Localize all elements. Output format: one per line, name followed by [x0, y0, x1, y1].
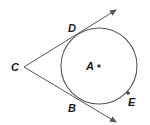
point-E-dot [126, 91, 130, 95]
label-B: B [68, 102, 76, 114]
ray-CD [24, 10, 116, 67]
label-D: D [68, 22, 76, 34]
label-E: E [128, 96, 136, 108]
circle-tangent-diagram: C D B A E [0, 0, 150, 125]
point-A-dot [97, 64, 101, 68]
label-C: C [11, 61, 20, 73]
label-A: A [85, 60, 94, 72]
